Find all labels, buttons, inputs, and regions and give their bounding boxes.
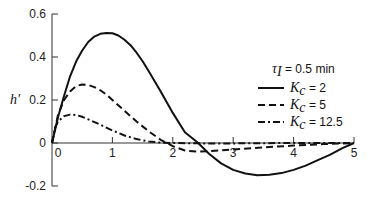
y-tick-label: 0 [39,136,46,150]
y-tick-label: 0.4 [29,50,46,64]
x-tick-label: 3 [230,146,237,160]
chart: -0.200.20.40.6012345 h' τI = 0.5 minKc =… [0,0,371,208]
y-axis-label: h' [10,92,21,107]
legend: τI = 0.5 minKc = 2Kc = 5Kc = 12.5 [258,61,343,132]
legend-entry: Kc = 2 [289,80,326,98]
y-tick-label: -0.2 [25,179,46,193]
legend-entry: Kc = 12.5 [289,114,343,132]
y-tick-label: 0.6 [29,7,46,21]
legend-entry: Kc = 5 [289,97,326,115]
x-tick-label: 5 [351,146,358,160]
y-tick-label: 0.2 [29,93,46,107]
x-tick-label: 0 [55,146,62,160]
tau-annotation: τI = 0.5 min [272,61,335,79]
x-tick-label: 1 [109,146,116,160]
x-tick-label: 2 [169,146,176,160]
x-tick-label: 4 [290,146,297,160]
